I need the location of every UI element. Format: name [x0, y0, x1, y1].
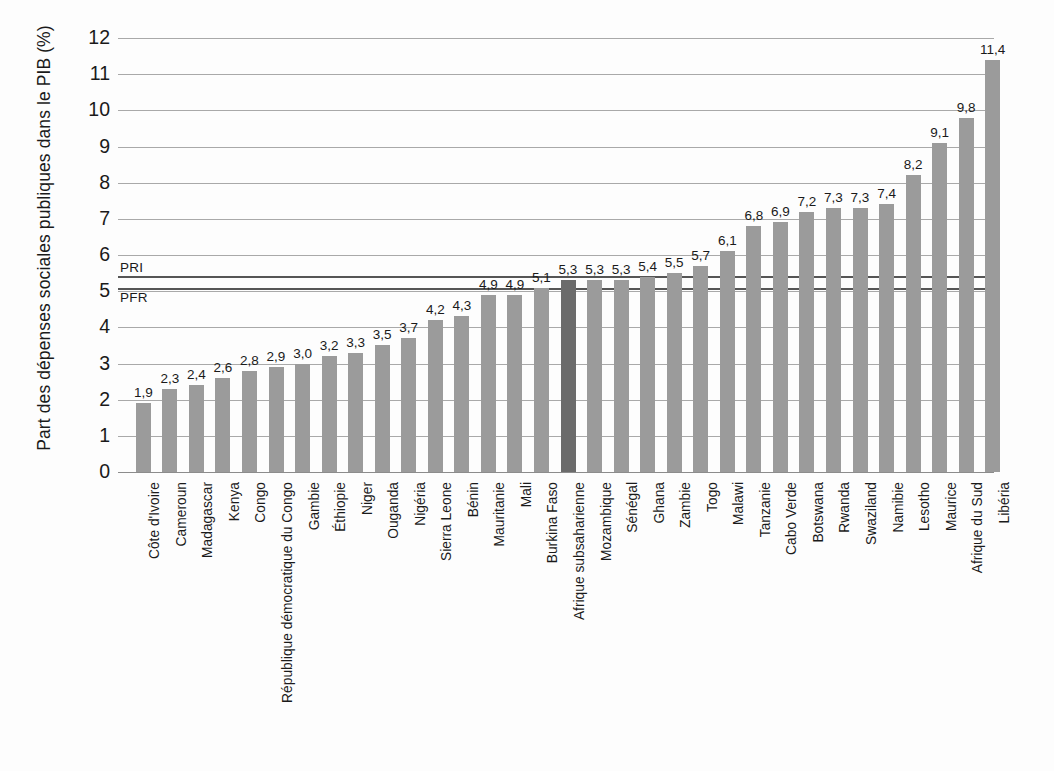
- x-axis-label-text: Côte d'Ivoire: [148, 478, 162, 559]
- x-axis-label: Côte d'Ivoire: [148, 397, 162, 478]
- x-axis-label: Ghana: [653, 433, 667, 478]
- x-axis-label: Lesotho: [918, 425, 932, 478]
- x-axis-label: Namibie: [892, 423, 906, 478]
- x-axis-label: Zambie: [679, 428, 693, 478]
- bar: [693, 266, 708, 472]
- y-axis-tick-9: 9: [68, 137, 110, 157]
- bar-value-label: 5,7: [682, 249, 719, 263]
- gridline-10: [118, 110, 994, 111]
- x-axis-category-labels: Côte d'IvoireCamerounMadagascarKenyaCong…: [118, 478, 994, 768]
- y-axis-tick-3: 3: [68, 354, 110, 374]
- x-axis-label: Libéria: [998, 433, 1012, 478]
- bar-value-label: 9,1: [921, 126, 958, 140]
- x-axis-label: Tanzanie: [759, 419, 773, 478]
- x-axis-label-text: Madagascar: [201, 478, 215, 558]
- x-axis-label: Afrique subsaharienne: [573, 336, 587, 478]
- x-axis-label-text: Zambie: [679, 478, 693, 528]
- y-axis-tick-7: 7: [68, 209, 110, 229]
- x-axis-label-text: Cameroun: [175, 478, 189, 546]
- x-axis-label: Cameroun: [175, 410, 189, 478]
- y-axis-tick-0: 0: [68, 462, 110, 482]
- x-axis-label: Congo: [254, 433, 268, 478]
- y-axis-tick-4: 4: [68, 317, 110, 337]
- y-axis-tick-12: 12: [68, 28, 110, 48]
- x-axis-label: Sierra Leone: [440, 395, 454, 478]
- bar: [985, 60, 1000, 472]
- bar-value-label: 8,2: [895, 158, 932, 172]
- x-axis-label-text: Sierra Leone: [440, 478, 454, 561]
- reference-label-pri: PRI: [120, 261, 143, 275]
- x-axis-label-text: Namibie: [892, 478, 906, 533]
- x-axis-label-text: Ouganda: [387, 478, 401, 539]
- x-axis-label-text: Ghana: [653, 478, 667, 523]
- x-axis-label-text: Kenya: [228, 478, 242, 521]
- y-axis-tick-6: 6: [68, 245, 110, 265]
- x-axis-label-text: Mali: [520, 478, 534, 507]
- x-axis-label: Mali: [520, 449, 534, 478]
- x-axis-label: Mauritanie: [493, 410, 507, 478]
- x-axis-label-text: Burkina Faso: [546, 478, 560, 563]
- x-axis-label-text: Sénégal: [626, 478, 640, 533]
- x-axis-label: Swaziland: [865, 411, 879, 478]
- x-axis-label-text: Libéria: [998, 478, 1012, 523]
- bar-value-label: 6,1: [709, 234, 746, 248]
- gridline-8: [118, 183, 994, 184]
- x-axis-label-text: Tanzanie: [759, 478, 773, 537]
- y-axis-tick-1: 1: [68, 426, 110, 446]
- x-axis-label: Kenya: [228, 435, 242, 478]
- x-axis-label: Nigéria: [414, 430, 428, 478]
- gridline-12: [118, 38, 994, 39]
- x-axis-label: Bénin: [467, 439, 481, 478]
- x-axis-label: Maurice: [945, 425, 959, 478]
- x-axis-label: Rwanda: [838, 423, 852, 478]
- bar-value-label: 9,8: [948, 101, 985, 115]
- x-axis-label: Togo: [706, 444, 720, 478]
- y-axis-tick-8: 8: [68, 173, 110, 193]
- bar: [507, 295, 522, 472]
- x-axis-label-text: Gambie: [308, 478, 322, 530]
- x-axis-label: Burkina Faso: [546, 393, 560, 478]
- x-axis-label-text: Cabo Verde: [785, 478, 799, 555]
- y-axis-tick-5: 5: [68, 281, 110, 301]
- x-axis-label: Afrique du Sud: [971, 383, 985, 478]
- x-axis-label: Madagascar: [201, 398, 215, 478]
- x-axis-label: République démocratique du Congo: [281, 253, 295, 478]
- bar-value-label: 11,4: [974, 43, 1011, 57]
- x-axis-label: Botswana: [812, 413, 826, 478]
- chart-container: Part des dépenses sociales publiques dan…: [0, 0, 1054, 771]
- x-axis-label: Niger: [361, 441, 375, 478]
- x-axis-label: Éthiopie: [334, 424, 348, 478]
- x-axis-label-text: Éthiopie: [334, 478, 348, 532]
- x-axis-label-text: République démocratique du Congo: [281, 478, 295, 703]
- x-axis-label-text: Bénin: [467, 478, 481, 517]
- x-axis-label: Cabo Verde: [785, 401, 799, 478]
- y-axis-tick-2: 2: [68, 390, 110, 410]
- x-axis-label-text: Maurice: [945, 478, 959, 531]
- x-axis-label: Gambie: [308, 426, 322, 478]
- bar-value-label: 7,4: [868, 187, 905, 201]
- x-axis-label-text: Congo: [254, 478, 268, 523]
- y-axis-tick-11: 11: [68, 64, 110, 84]
- x-axis-label-text: Togo: [706, 478, 720, 512]
- x-axis-label: Ouganda: [387, 417, 401, 478]
- x-axis-label-text: Mozambique: [600, 478, 614, 561]
- bar: [932, 143, 947, 472]
- y-axis-title: Part des dépenses sociales publiques dan…: [22, 0, 66, 478]
- x-axis-label-text: Nigéria: [414, 478, 428, 526]
- bar-value-label: 4,3: [443, 299, 480, 313]
- x-axis-label-text: Swaziland: [865, 478, 879, 545]
- reference-label-pfr: PFR: [120, 291, 148, 305]
- x-axis-label-text: Niger: [361, 478, 375, 515]
- gridline-9: [118, 147, 994, 148]
- y-axis-tick-10: 10: [68, 100, 110, 120]
- x-axis-label: Sénégal: [626, 423, 640, 478]
- x-axis-label-text: Afrique du Sud: [971, 478, 985, 573]
- x-axis-label-text: Rwanda: [838, 478, 852, 533]
- x-axis-label: Malawi: [732, 431, 746, 478]
- x-axis-label-text: Botswana: [812, 478, 826, 543]
- bar-value-label: 3,7: [390, 321, 427, 335]
- y-axis-tick-labels: 0123456789101112: [68, 38, 110, 472]
- gridline-11: [118, 74, 994, 75]
- x-axis-label-text: Mauritanie: [493, 478, 507, 546]
- x-axis-label-text: Afrique subsaharienne: [573, 478, 587, 620]
